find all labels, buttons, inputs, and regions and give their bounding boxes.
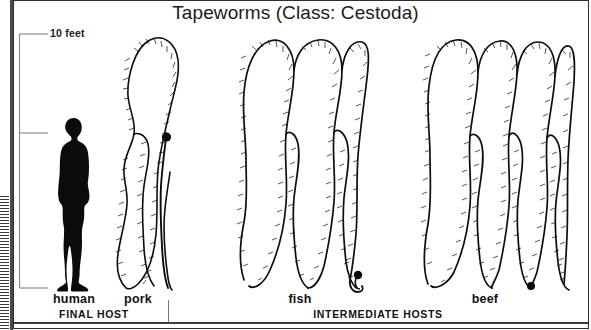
species-label-pork: pork <box>108 292 168 306</box>
species-label-beef: beef <box>430 292 540 306</box>
species-label-human: human <box>40 292 108 306</box>
left-edge-bar <box>10 0 13 330</box>
tapeworm-head-knob <box>527 282 535 290</box>
bottom-rule <box>14 322 588 324</box>
species-label-fish: fish <box>250 292 350 306</box>
tapeworm-fish-icon <box>232 30 372 295</box>
host-group-intermediate: INTERMEDIATE HOSTS <box>168 308 588 320</box>
host-group-final: FINAL HOST <box>20 308 168 320</box>
page-title: Tapeworms (Class: Cestoda) <box>0 2 591 24</box>
tapeworm-beef-icon <box>412 30 577 295</box>
human-silhouette-icon <box>44 115 102 295</box>
left-texture-strip <box>0 196 9 330</box>
tapeworm-figure: Tapeworms (Class: Cestoda) 10 feet <box>0 0 591 330</box>
tapeworm-pork-icon <box>110 30 190 295</box>
scale-label: 10 feet <box>50 27 85 39</box>
